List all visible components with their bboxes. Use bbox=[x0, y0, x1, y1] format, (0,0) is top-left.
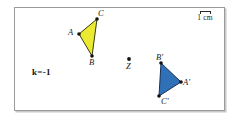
scale-indicator: 1 cm bbox=[190, 11, 220, 22]
geometry-drawing bbox=[15, 8, 225, 111]
vertex-label-c: C bbox=[98, 9, 104, 18]
vertex-label-c-prime: C' bbox=[161, 97, 169, 106]
triangle-abc-shape[interactable] bbox=[79, 19, 97, 56]
scale-factor-label: k=-1 bbox=[32, 67, 51, 77]
vertex-label-b-prime: B' bbox=[156, 53, 163, 62]
vertex-label-b: B bbox=[89, 58, 94, 67]
vertex-label-a-prime: A' bbox=[183, 78, 190, 87]
vertex-dot-a[interactable] bbox=[77, 32, 81, 36]
triangle-abc-prime-shape[interactable] bbox=[159, 63, 181, 96]
figure-canvas: A C B A' B' C' Z k=-1 1 cm bbox=[0, 0, 236, 121]
centre-point-label: Z bbox=[126, 62, 131, 71]
geometry-frame: A C B A' B' C' Z k=-1 1 cm bbox=[14, 7, 225, 111]
scale-label: 1 cm bbox=[190, 14, 220, 22]
vertex-label-a: A bbox=[68, 28, 73, 37]
